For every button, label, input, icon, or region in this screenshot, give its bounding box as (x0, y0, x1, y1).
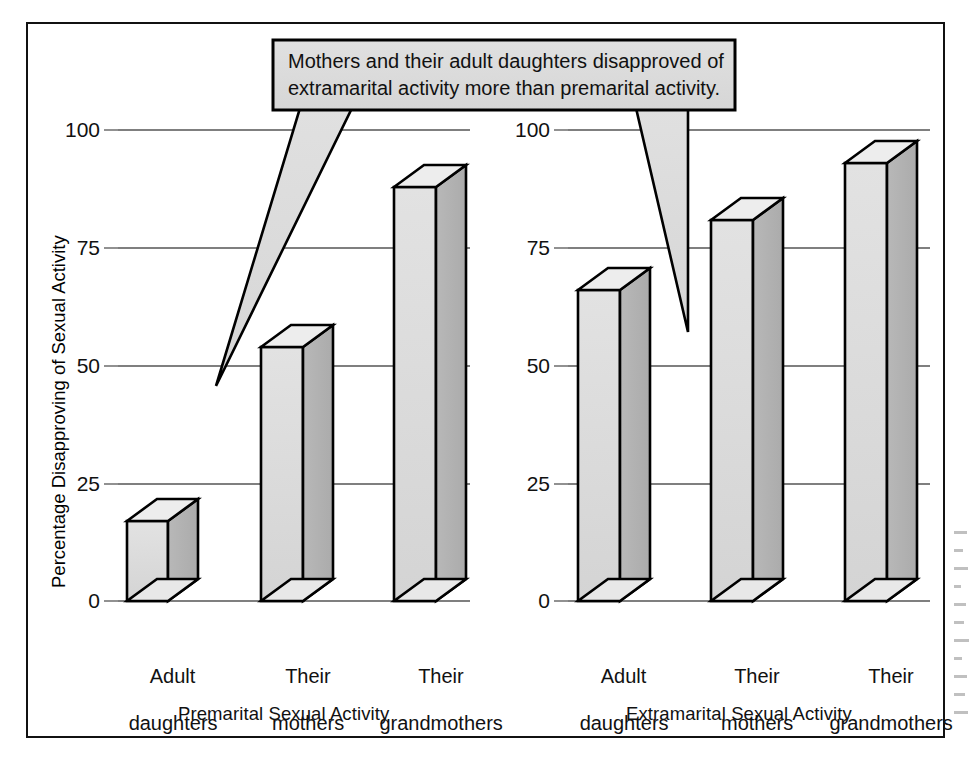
ytick-label-right-0: 0 (488, 589, 550, 614)
y-axis-title: Percentage Disapproving of Sexual Activi… (48, 235, 70, 588)
ytick-label-left-100: 100 (38, 118, 100, 143)
category-line-1: Their (868, 665, 914, 687)
category-line-1: Adult (150, 665, 196, 687)
callout-text: Mothers and their adult daughters disapp… (288, 48, 724, 101)
panel-title-extramarital: Extramarital Sexual Activity (626, 703, 852, 725)
category-line-2: grandmothers (379, 712, 502, 734)
chart-page: Mothers and their adult daughters disapp… (0, 0, 976, 763)
ytick-label-left-50: 50 (38, 354, 100, 379)
category-line-1: Their (418, 665, 464, 687)
ytick-label-right-50: 50 (488, 354, 550, 379)
bar-extramarital-their-mothers (711, 198, 783, 601)
bar-extramarital-adult-daughters (578, 268, 650, 601)
ytick-marks-left (104, 130, 118, 601)
category-line-1: Their (734, 665, 780, 687)
ytick-label-right-75: 75 (488, 236, 550, 261)
category-line-1: Their (285, 665, 331, 687)
ytick-label-left-75: 75 (38, 236, 100, 261)
category-label-extramarital-2: Their grandmothers (795, 641, 965, 759)
category-label-premarital-2: Their grandmothers (345, 641, 515, 759)
ytick-label-left-0: 0 (38, 589, 100, 614)
category-line-1: Adult (601, 665, 647, 687)
bar-premarital-their-mothers (261, 325, 333, 601)
ytick-label-right-25: 25 (488, 472, 550, 497)
bar-extramarital-their-grandmothers (845, 141, 917, 601)
panel-title-premarital: Premarital Sexual Activity (178, 703, 389, 725)
ytick-label-right-100: 100 (488, 118, 550, 143)
page-margin-artifact (950, 525, 974, 740)
ytick-label-left-25: 25 (38, 472, 100, 497)
ytick-marks-right (554, 130, 568, 601)
bar-premarital-adult-daughters (127, 499, 198, 601)
bar-premarital-their-grandmothers (394, 165, 466, 601)
